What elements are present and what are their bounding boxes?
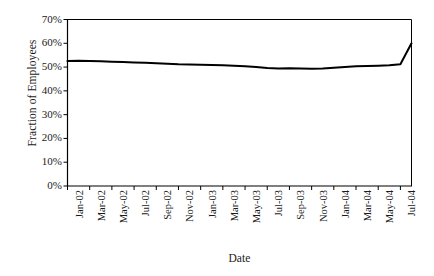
chart-figure: Fraction of Employees 70%60%50%40%30%20%… bbox=[0, 0, 434, 276]
data-series-line bbox=[68, 43, 412, 68]
plot-frame bbox=[67, 20, 412, 187]
plot-area bbox=[0, 0, 434, 276]
x-tick-marks bbox=[68, 186, 401, 190]
